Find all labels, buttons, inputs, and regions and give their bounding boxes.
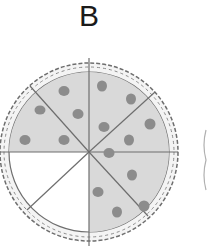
slice-cut-lines	[0, 58, 178, 246]
adjacent-figure-edge	[204, 130, 206, 190]
pizza-figure	[0, 0, 210, 252]
